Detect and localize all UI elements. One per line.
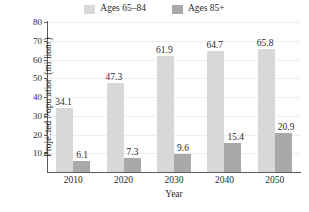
y-axis-tick-label: 60 bbox=[33, 56, 42, 65]
bar-column[interactable]: 47.3 bbox=[107, 83, 124, 172]
bar-column[interactable]: 15.4 bbox=[224, 143, 241, 172]
bar-value-label: 9.6 bbox=[177, 143, 189, 153]
bar-value-label: 34.1 bbox=[55, 97, 72, 107]
bar[interactable] bbox=[258, 49, 275, 172]
x-axis-tick-label: 2050 bbox=[250, 175, 300, 188]
legend-label: Ages 85+ bbox=[188, 4, 225, 14]
bar-column[interactable]: 20.9 bbox=[275, 133, 292, 172]
bar[interactable] bbox=[124, 158, 141, 172]
bar-value-label: 7.3 bbox=[127, 147, 139, 157]
bar[interactable] bbox=[107, 83, 124, 172]
legend-item-ages-65-84: Ages 65–84 bbox=[84, 4, 146, 14]
y-axis-tick-label: 20 bbox=[33, 131, 42, 140]
bar[interactable] bbox=[207, 51, 224, 172]
bar[interactable] bbox=[275, 133, 292, 172]
legend-swatch-icon bbox=[172, 5, 183, 14]
bar-column[interactable]: 9.6 bbox=[174, 154, 191, 172]
bar[interactable] bbox=[73, 161, 90, 172]
bar-column[interactable]: 34.1 bbox=[56, 108, 73, 172]
grouped-bar-chart: Ages 65–84 Ages 85+ Projected Population… bbox=[0, 0, 309, 212]
x-axis-tick-label: 2010 bbox=[48, 175, 98, 188]
bar-column[interactable]: 64.7 bbox=[207, 51, 224, 172]
bar-value-label: 20.9 bbox=[278, 122, 295, 132]
bar[interactable] bbox=[157, 56, 174, 172]
y-axis-tick-label: 30 bbox=[33, 112, 42, 121]
bar-group: 65.820.9 bbox=[250, 22, 300, 172]
bar-value-label: 6.1 bbox=[76, 150, 88, 160]
x-axis-tick-label: 2020 bbox=[98, 175, 148, 188]
legend-label: Ages 65–84 bbox=[100, 4, 146, 14]
bar-group: 64.715.4 bbox=[199, 22, 249, 172]
x-axis-line bbox=[47, 172, 301, 173]
x-axis-tick-labels: 20102020203020402050 bbox=[48, 175, 300, 188]
bar-group: 34.16.1 bbox=[48, 22, 98, 172]
bar-group: 61.99.6 bbox=[149, 22, 199, 172]
bar-value-label: 64.7 bbox=[206, 40, 223, 50]
plot-area: Projected Population (millions) 10203040… bbox=[48, 22, 300, 172]
bar-value-label: 65.8 bbox=[257, 38, 274, 48]
bar[interactable] bbox=[174, 154, 191, 172]
bar-value-label: 47.3 bbox=[106, 72, 123, 82]
y-axis-tick-label: 70 bbox=[33, 37, 42, 46]
bar-column[interactable]: 61.9 bbox=[157, 56, 174, 172]
bar-column[interactable]: 6.1 bbox=[73, 161, 90, 172]
bar-column[interactable]: 7.3 bbox=[124, 158, 141, 172]
bar[interactable] bbox=[56, 108, 73, 172]
legend-item-ages-85-plus: Ages 85+ bbox=[172, 4, 225, 14]
y-axis-tick-label: 50 bbox=[33, 74, 42, 83]
bar-group: 47.37.3 bbox=[98, 22, 148, 172]
x-axis-tick-label: 2040 bbox=[199, 175, 249, 188]
y-axis-tick-label: 80 bbox=[33, 18, 42, 27]
bar-column[interactable]: 65.8 bbox=[258, 49, 275, 172]
bar-value-label: 15.4 bbox=[227, 132, 244, 142]
legend-swatch-icon bbox=[84, 5, 95, 14]
y-axis-tick-label: 10 bbox=[33, 149, 42, 158]
x-axis-tick-label: 2030 bbox=[149, 175, 199, 188]
bar-value-label: 61.9 bbox=[156, 45, 173, 55]
y-axis-tick-label: 40 bbox=[33, 93, 42, 102]
bar-groups: 34.16.147.37.361.99.664.715.465.820.9 bbox=[48, 22, 300, 172]
chart-legend: Ages 65–84 Ages 85+ bbox=[0, 2, 309, 16]
bar[interactable] bbox=[224, 143, 241, 172]
x-axis-title: Year bbox=[48, 189, 300, 200]
